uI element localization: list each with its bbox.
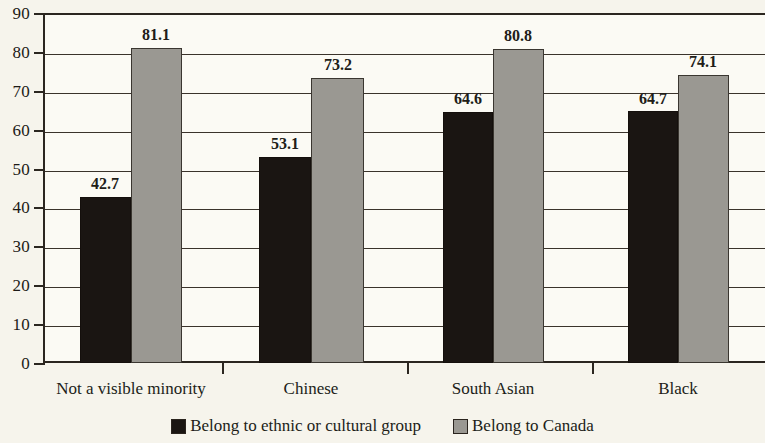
bar-chinese-belong-to-ethnic-or-cultural-group — [259, 157, 311, 364]
x-tick-separator-1 — [222, 363, 224, 374]
y-tick-30 — [34, 246, 45, 248]
x-tick-separator-2 — [407, 363, 409, 374]
category-label-south-asian: South Asian — [403, 380, 583, 398]
bar-value-chinese-canada: 73.2 — [308, 57, 368, 73]
y-axis-label-50: 50 — [0, 161, 30, 178]
y-tick-10 — [34, 324, 45, 326]
y-axis-label-90: 90 — [0, 5, 30, 22]
bar-value-south-asian-canada: 80.8 — [488, 28, 548, 44]
y-tick-50 — [34, 169, 45, 171]
bar-black-belong-to-ethnic-or-cultural-group — [628, 111, 678, 363]
x-tick-separator-3 — [592, 363, 594, 374]
y-tick-90 — [34, 13, 45, 15]
bar-not-a-visible-minority-belong-to-canada — [131, 48, 182, 364]
bar-value-not-a-visible-minority-canada: 81.1 — [126, 27, 186, 43]
y-tick-0 — [34, 363, 45, 365]
y-axis-label-70: 70 — [0, 83, 30, 100]
bar-black-belong-to-canada — [678, 75, 729, 363]
legend-swatch-gray-icon — [453, 419, 468, 434]
legend-label-belong-to-canada: Belong to Canada — [472, 417, 594, 435]
category-label-chinese: Chinese — [221, 380, 401, 398]
bar-value-black-canada: 74.1 — [673, 54, 733, 70]
y-tick-60 — [34, 130, 45, 132]
category-label-black: Black — [588, 380, 765, 398]
bar-value-not-a-visible-minority-group: 42.7 — [75, 176, 135, 192]
legend-item-belong-to-canada: Belong to Canada — [453, 417, 594, 435]
legend-label-belong-to-ethnic-or-cultural-group: Belong to ethnic or cultural group — [190, 417, 421, 435]
bar-value-chinese-group: 53.1 — [255, 136, 315, 152]
bar-value-black-group: 64.7 — [623, 91, 683, 107]
category-label-not-a-visible-minority: Not a visible minority — [31, 380, 231, 398]
bar-value-south-asian-group: 64.6 — [438, 91, 498, 107]
bar-chart: 90 80 70 60 50 40 30 20 10 0 42.7 81.1 N… — [0, 0, 765, 443]
y-axis-label-0: 0 — [0, 355, 30, 372]
bar-south-asian-belong-to-canada — [493, 49, 544, 363]
y-axis-label-30: 30 — [0, 238, 30, 255]
y-tick-70 — [34, 91, 45, 93]
y-axis-label-40: 40 — [0, 199, 30, 216]
chart-legend: Belong to ethnic or cultural group Belon… — [0, 417, 765, 435]
legend-item-belong-to-ethnic-or-cultural-group: Belong to ethnic or cultural group — [171, 417, 421, 435]
bar-south-asian-belong-to-ethnic-or-cultural-group — [443, 112, 493, 363]
y-axis-label-60: 60 — [0, 122, 30, 139]
y-tick-40 — [34, 207, 45, 209]
y-axis-label-80: 80 — [0, 44, 30, 61]
bar-chinese-belong-to-canada — [311, 78, 364, 363]
bar-not-a-visible-minority-belong-to-ethnic-or-cultural-group — [80, 197, 131, 363]
y-axis-label-10: 10 — [0, 316, 30, 333]
y-axis-label-20: 20 — [0, 277, 30, 294]
y-tick-20 — [34, 285, 45, 287]
legend-swatch-dark-icon — [171, 419, 186, 434]
y-tick-80 — [34, 52, 45, 54]
